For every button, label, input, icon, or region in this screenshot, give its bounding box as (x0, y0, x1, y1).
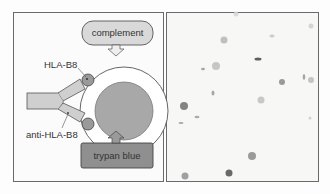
complement-label: complement (92, 27, 144, 38)
cell (221, 37, 228, 44)
cell (309, 117, 312, 120)
antibody-icon (27, 79, 85, 122)
cell (179, 122, 184, 124)
micrograph-cells (179, 12, 315, 180)
cell (212, 62, 220, 70)
cell (234, 12, 239, 17)
cell (248, 152, 256, 160)
cell (309, 24, 314, 29)
cell (303, 74, 306, 80)
cell (212, 91, 215, 96)
cell (226, 170, 233, 177)
cell (308, 77, 314, 83)
cell (180, 102, 188, 110)
hla-b8-label: HLA-B8 (44, 59, 77, 70)
cell-nucleus (95, 82, 153, 140)
cell (279, 79, 285, 85)
anti-hla-b8-label: anti-HLA-B8 (26, 129, 78, 140)
cell (201, 68, 205, 70)
figure-canvas: complement HLA-B8 anti-HLA-B8 trypan blu… (0, 0, 330, 194)
trypan-blue-label: trypan blue (93, 150, 140, 161)
antigen-top-icon (82, 74, 94, 86)
antigen-bottom-icon (82, 118, 94, 130)
cell (195, 116, 200, 119)
cell (182, 173, 189, 180)
arrow-down-icon (108, 45, 124, 56)
cell (270, 35, 275, 38)
cell (258, 97, 265, 104)
cell (255, 58, 262, 61)
